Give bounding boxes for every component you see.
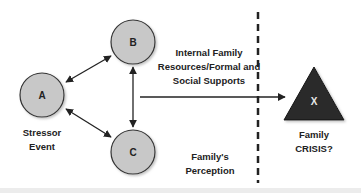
node-a-caption-1: Stressor <box>23 127 62 138</box>
svg-text:B: B <box>129 37 136 48</box>
edge-a-c <box>66 109 111 137</box>
node-b-caption-3: Social Supports <box>173 75 245 86</box>
node-b-caption-2: Resources/Formal and <box>158 61 261 72</box>
edge-a-b <box>66 56 111 82</box>
svg-text:A: A <box>38 90 45 101</box>
svg-text:C: C <box>129 147 136 158</box>
node-x-caption-2: CRISIS? <box>295 143 333 154</box>
node-a-caption-2: Event <box>29 141 56 152</box>
svg-text:X: X <box>311 96 318 107</box>
node-b-caption-1: Internal Family <box>175 47 243 58</box>
node-c-caption-2: Perception <box>185 165 234 176</box>
bottom-edge <box>0 188 361 193</box>
node-x-caption-1: Family <box>299 129 330 140</box>
node-c: C Family's Perception <box>111 130 235 176</box>
node-x: X Family CRISIS? <box>284 67 344 154</box>
node-a: A Stressor Event <box>20 73 64 152</box>
node-c-caption-1: Family's <box>191 151 229 162</box>
abcx-diagram: A Stressor Event B Internal Family Resou… <box>0 0 361 193</box>
